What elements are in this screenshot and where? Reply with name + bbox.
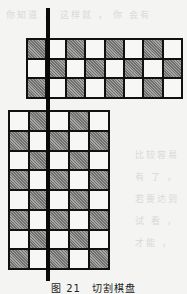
dark-square <box>50 132 68 150</box>
dark-square <box>90 132 108 150</box>
dark-square <box>144 79 161 97</box>
faded-background-text-side-2: 有 了 ， <box>135 170 178 183</box>
dark-square <box>106 40 123 58</box>
light-square <box>50 152 68 170</box>
light-square <box>50 231 68 249</box>
light-square <box>67 60 84 78</box>
dark-square <box>67 79 84 97</box>
light-square <box>90 231 108 249</box>
cut-line-bar <box>46 8 50 281</box>
light-square <box>70 211 88 229</box>
light-square <box>70 171 88 189</box>
dark-square <box>106 79 123 97</box>
light-square <box>10 112 28 130</box>
light-square <box>50 191 68 209</box>
light-square <box>70 132 88 150</box>
light-square <box>10 152 28 170</box>
dark-square <box>28 79 45 97</box>
faded-background-text-side-3: 若要达到 <box>135 192 179 205</box>
faded-background-text-top: 你知道 ， 这样就 ， 你 会有 <box>6 8 151 21</box>
bottom-chessboard <box>8 110 110 270</box>
light-square <box>164 40 181 58</box>
light-square <box>28 60 45 78</box>
light-square <box>106 60 123 78</box>
dark-square <box>144 40 161 58</box>
faded-background-text-side-5: 才能 ， <box>135 236 173 249</box>
dark-square <box>10 250 28 268</box>
light-square <box>90 112 108 130</box>
dark-square <box>50 250 68 268</box>
light-square <box>10 231 28 249</box>
dark-square <box>70 231 88 249</box>
light-square <box>86 40 103 58</box>
dark-square <box>90 211 108 229</box>
dark-square <box>70 191 88 209</box>
dark-square <box>90 250 108 268</box>
light-square <box>70 250 88 268</box>
dark-square <box>28 40 45 58</box>
dark-square <box>67 40 84 58</box>
dark-square <box>10 171 28 189</box>
dark-square <box>50 171 68 189</box>
dark-square <box>125 60 142 78</box>
dark-square <box>164 60 181 78</box>
light-square <box>10 191 28 209</box>
dark-square <box>50 211 68 229</box>
faded-background-text-side-1: 比较容易 <box>135 148 179 161</box>
light-square <box>86 79 103 97</box>
light-square <box>144 60 161 78</box>
light-square <box>125 79 142 97</box>
dark-square <box>10 211 28 229</box>
light-square <box>90 191 108 209</box>
light-square <box>125 40 142 58</box>
light-square <box>164 79 181 97</box>
figure-caption: 图 21 切割棋盘 <box>0 280 187 294</box>
faded-background-text-side-4: 试 看 ， <box>135 214 178 227</box>
dark-square <box>86 60 103 78</box>
dark-square <box>70 152 88 170</box>
dark-square <box>70 112 88 130</box>
light-square <box>50 112 68 130</box>
light-square <box>90 152 108 170</box>
dark-square <box>10 132 28 150</box>
dark-square <box>90 171 108 189</box>
